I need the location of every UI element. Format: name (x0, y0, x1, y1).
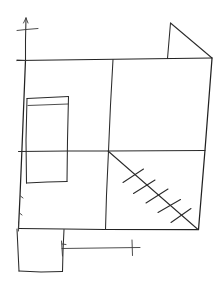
canopy-sloped-edge (171, 23, 213, 58)
extension-right-tick (62, 244, 66, 245)
top-axis-crossbar (17, 29, 38, 31)
bottom-dimension-line (62, 248, 140, 249)
canopy-vertical-edge (168, 23, 171, 59)
bottom-extension-bottom-edge (19, 271, 63, 272)
top-axis-line (26, 18, 27, 61)
stair-run-diagonal (108, 151, 198, 230)
inner-room-left-edge (26, 99, 27, 184)
dimension-tick-left (62, 241, 63, 256)
floor-plan-sketch-canvas (0, 0, 222, 283)
stair-tread-4 (158, 200, 181, 213)
left-wall (19, 60, 26, 229)
inner-room-right-edge (67, 97, 69, 182)
bottom-wall (19, 229, 199, 230)
right-wall (199, 59, 213, 230)
vertical-partition-wall (106, 60, 114, 230)
horizontal-partition-wall (19, 151, 206, 152)
bottom-extension-left-edge (17, 229, 19, 271)
top-left-corner-nick (17, 60, 26, 61)
inner-room-inner-ledge (28, 104, 68, 106)
top-wall (17, 58, 212, 61)
inner-room-bottom-edge (27, 182, 68, 184)
stair-tread-1 (123, 169, 144, 183)
inner-room-top-edge (27, 97, 69, 99)
dimension-tick-right (132, 240, 133, 256)
left-wall-opening-lower (20, 213, 23, 215)
left-wall-opening-upper (21, 196, 24, 198)
floor-plan-drawing (0, 0, 222, 283)
bottom-extension-right-edge (63, 230, 65, 272)
